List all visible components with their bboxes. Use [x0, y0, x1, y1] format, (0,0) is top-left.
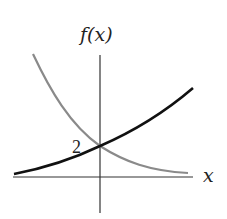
y-axis-label: f(x): [78, 23, 113, 45]
exponential-graph: f(x) x 2: [0, 0, 227, 219]
decreasing-exponential-curve: [33, 54, 188, 173]
increasing-exponential-curve: [14, 88, 193, 174]
x-axis-label: x: [203, 164, 214, 186]
y-intercept-label: 2: [72, 137, 81, 157]
